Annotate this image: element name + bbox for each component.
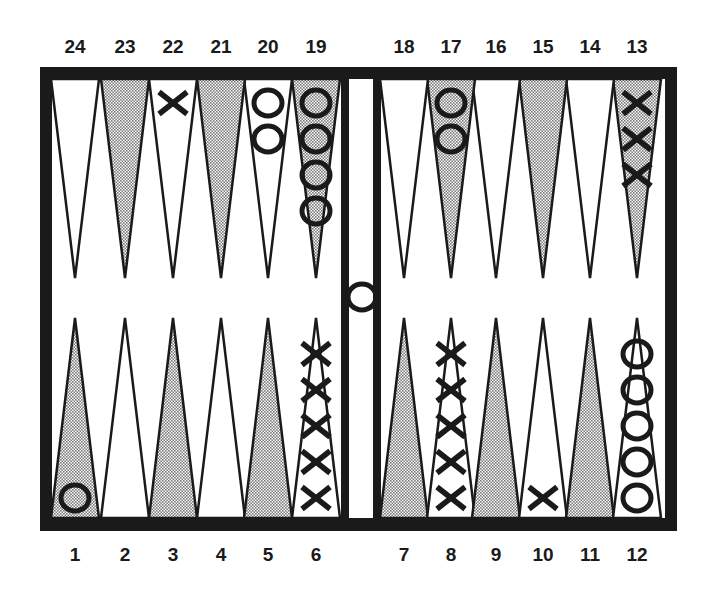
point-19[interactable]: [292, 79, 340, 278]
point-label-17: 17: [431, 36, 471, 58]
point-label-6: 6: [296, 544, 336, 566]
point-10[interactable]: [519, 318, 567, 518]
bar: [348, 284, 376, 310]
point-11[interactable]: [566, 318, 614, 518]
point-label-15: 15: [523, 36, 563, 58]
point-label-10: 10: [523, 544, 563, 566]
point-label-9: 9: [476, 544, 516, 566]
point-label-12: 12: [617, 544, 657, 566]
point-label-11: 11: [570, 544, 610, 566]
point-16[interactable]: [472, 79, 520, 278]
point-2[interactable]: [101, 318, 149, 518]
point-label-8: 8: [431, 544, 471, 566]
point-label-19: 19: [296, 36, 336, 58]
points-layer: [51, 79, 661, 518]
point-20[interactable]: [244, 79, 292, 278]
point-21[interactable]: [197, 79, 245, 278]
point-label-22: 22: [153, 36, 193, 58]
point-label-2: 2: [105, 544, 145, 566]
point-label-21: 21: [201, 36, 241, 58]
point-8[interactable]: [427, 318, 475, 518]
point-24[interactable]: [51, 79, 99, 278]
point-9[interactable]: [472, 318, 520, 518]
point-6[interactable]: [292, 318, 340, 518]
point-4[interactable]: [197, 318, 245, 518]
point-label-23: 23: [105, 36, 145, 58]
point-label-18: 18: [384, 36, 424, 58]
checker-o-bar[interactable]: [348, 284, 376, 310]
point-7[interactable]: [380, 318, 428, 518]
point-label-3: 3: [153, 544, 193, 566]
point-18[interactable]: [380, 79, 428, 278]
point-14[interactable]: [566, 79, 614, 278]
point-label-24: 24: [55, 36, 95, 58]
point-label-5: 5: [248, 544, 288, 566]
backgammon-board: [0, 0, 710, 592]
point-label-13: 13: [617, 36, 657, 58]
point-label-1: 1: [55, 544, 95, 566]
point-12[interactable]: [613, 318, 661, 518]
point-label-4: 4: [201, 544, 241, 566]
point-5[interactable]: [244, 318, 292, 518]
point-15[interactable]: [519, 79, 567, 278]
point-17[interactable]: [427, 79, 475, 278]
point-label-7: 7: [384, 544, 424, 566]
point-label-20: 20: [248, 36, 288, 58]
point-13[interactable]: [613, 79, 661, 278]
point-23[interactable]: [101, 79, 149, 278]
point-3[interactable]: [149, 318, 197, 518]
point-label-16: 16: [476, 36, 516, 58]
point-22[interactable]: [149, 79, 197, 278]
point-label-14: 14: [570, 36, 610, 58]
point-1[interactable]: [51, 318, 99, 518]
checkers-layer: [61, 90, 651, 511]
